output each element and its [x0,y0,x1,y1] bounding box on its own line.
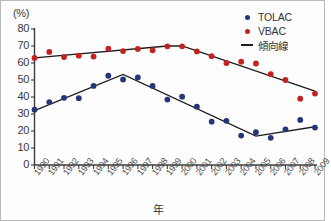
trend-line [35,74,316,136]
data-point [224,118,230,124]
data-point [150,47,156,53]
legend-line-icon [241,44,253,46]
data-point [283,77,289,83]
data-point [209,53,215,59]
chart-legend: TOLACVBAC傾向線 [239,11,292,53]
data-point [91,83,97,89]
data-point [105,73,111,79]
x-axis-title: 年 [153,201,164,217]
data-point [194,49,200,55]
data-point [105,46,111,52]
legend-item-label: 傾向線 [258,38,287,53]
data-point [312,91,318,97]
data-point [46,99,52,105]
legend-marker [239,44,255,46]
data-point [253,129,259,135]
legend-item: VBAC [239,25,292,37]
data-point [135,75,141,81]
legend-marker [239,15,255,20]
data-point [268,135,274,141]
legend-marker [239,29,255,34]
legend-item-label: TOLAC [258,11,292,23]
data-point [297,117,303,123]
data-point [312,125,318,131]
data-point [32,55,38,61]
data-point [61,95,67,101]
data-point [120,77,126,83]
data-point [46,49,52,55]
data-point [268,71,274,77]
legend-item-label: VBAC [258,25,286,37]
legend-item: 傾向線 [239,39,292,51]
data-point [238,133,244,139]
data-point [91,54,97,60]
data-point [135,46,141,52]
data-point [238,59,244,65]
data-point [150,83,156,89]
data-point [209,119,215,125]
data-point [61,54,67,60]
data-point [76,53,82,59]
data-point [283,126,289,132]
legend-dot-icon [245,15,250,20]
data-point [179,43,185,49]
data-point [164,43,170,49]
data-point [194,104,200,110]
data-point [120,48,126,54]
data-point [164,97,170,103]
data-point [76,95,82,101]
legend-dot-icon [245,29,250,34]
legend-item: TOLAC [239,11,292,23]
data-point [32,107,38,113]
data-point [297,96,303,102]
data-point [179,94,185,100]
data-point [253,61,259,67]
data-point [224,60,230,66]
